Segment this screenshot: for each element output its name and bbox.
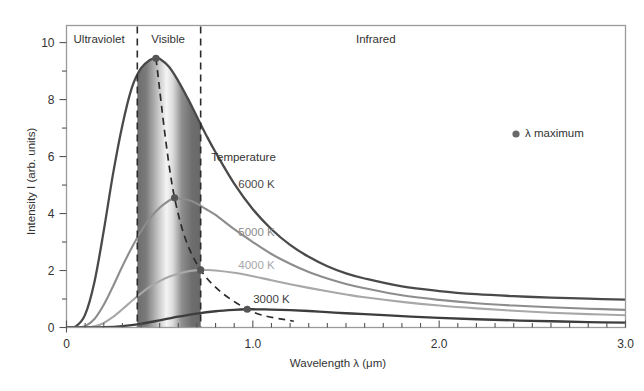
y-tick-label: 8 xyxy=(48,94,55,106)
region-label-infrared: Infrared xyxy=(356,34,396,46)
y-tick-label: 0 xyxy=(48,322,55,334)
x-tick-label: 3.0 xyxy=(617,338,634,350)
y-axis-title: Intensity I (arb. units) xyxy=(26,127,38,234)
series-label-6000k: 6000 K xyxy=(238,179,274,191)
temperature-group-title: Temperature xyxy=(211,152,276,164)
legend-marker-dot xyxy=(512,130,519,137)
x-tick-label: 1.0 xyxy=(244,338,261,350)
y-tick-label: 6 xyxy=(48,151,55,163)
region-label-ultraviolet: Ultraviolet xyxy=(74,34,125,46)
legend-label-lambda-maximum: λ maximum xyxy=(525,128,584,140)
x-tick-label: 2.0 xyxy=(431,338,448,350)
x-axis-title: Wavelength λ (μm) xyxy=(290,358,386,370)
y-tick-label: 10 xyxy=(41,37,54,49)
series-label-5000k: 5000 K xyxy=(238,228,274,240)
chart-figure: Ultraviolet Visible Infrared Temperature… xyxy=(0,0,644,391)
series-label-3000k: 3000 K xyxy=(253,295,289,307)
region-label-visible: Visible xyxy=(151,34,185,46)
x-tick-label: 0 xyxy=(63,338,70,350)
blackbody-spectrum-plot xyxy=(0,0,644,391)
y-tick-label: 4 xyxy=(48,208,55,220)
visible-spectrum-band xyxy=(137,26,200,328)
series-label-4000k: 4000 K xyxy=(238,260,274,272)
y-tick-label: 2 xyxy=(48,265,55,277)
